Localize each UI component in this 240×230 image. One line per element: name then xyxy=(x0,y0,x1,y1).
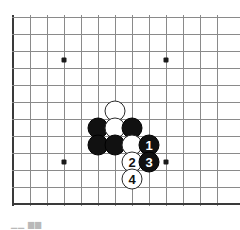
caption-fragment: ▁▁ ▆▆ xyxy=(11,220,42,229)
stone-move-number: 2 xyxy=(128,155,135,168)
stone-move-number: 4 xyxy=(128,172,135,185)
stone-black-move-3: 3 xyxy=(139,151,160,172)
board-stones: 1234 xyxy=(0,0,240,230)
stone-move-number: 3 xyxy=(145,155,152,168)
go-board-figure: 1234 ▁▁ ▆▆ xyxy=(0,0,240,230)
stone-move-number: 1 xyxy=(145,138,152,151)
stone-white-move-4: 4 xyxy=(122,168,143,189)
